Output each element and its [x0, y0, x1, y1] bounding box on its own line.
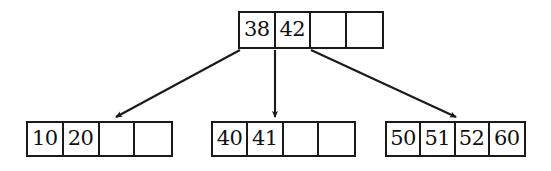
leaf-0-cell-1[interactable]: 20	[64, 123, 100, 155]
root-cell-1[interactable]: 42	[276, 13, 312, 47]
root-cell-0[interactable]: 38	[240, 13, 276, 47]
btree-leaf-node-middle[interactable]: 40 41	[211, 121, 356, 157]
root-cell-2[interactable]	[311, 13, 347, 47]
btree-leaf-node-right[interactable]: 50 51 52 60	[385, 121, 526, 157]
leaf-1-cell-0[interactable]: 40	[213, 123, 248, 155]
leaf-1-cell-1[interactable]: 41	[248, 123, 283, 155]
edge-root-to-leaf-2	[311, 50, 456, 117]
leaf-0-cell-0[interactable]: 10	[28, 123, 64, 155]
leaf-1-cell-2[interactable]	[284, 123, 319, 155]
btree-diagram: 38 42 10 20 40 41 50 51 52 60	[0, 0, 551, 171]
leaf-0-cell-2[interactable]	[100, 123, 136, 155]
leaf-2-cell-0[interactable]: 50	[387, 123, 421, 155]
leaf-2-cell-1[interactable]: 51	[421, 123, 455, 155]
btree-leaf-node-left[interactable]: 10 20	[26, 121, 173, 157]
leaf-2-cell-2[interactable]: 52	[456, 123, 490, 155]
root-cell-3[interactable]	[347, 13, 383, 47]
leaf-0-cell-3[interactable]	[135, 123, 171, 155]
edge-root-to-leaf-0	[116, 50, 240, 117]
leaf-2-cell-3[interactable]: 60	[490, 123, 524, 155]
leaf-1-cell-3[interactable]	[319, 123, 354, 155]
btree-root-node[interactable]: 38 42	[238, 11, 384, 49]
